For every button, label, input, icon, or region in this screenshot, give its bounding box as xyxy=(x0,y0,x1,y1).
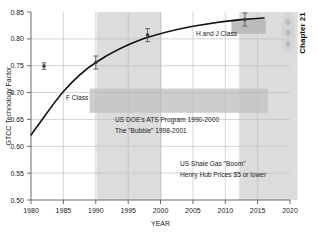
x-tick-label: 2000 xyxy=(153,207,169,214)
annotation-bubble: The "Bubble" 1998-2001 xyxy=(115,127,187,134)
x-tick-label: 2020 xyxy=(282,207,298,214)
y-tick-label: 0.70 xyxy=(10,89,24,96)
y-tick-label: 0.75 xyxy=(10,62,24,69)
x-axis-ticks xyxy=(31,200,290,204)
annotation-f-class: F Class xyxy=(66,94,89,101)
oval-artifact-dot xyxy=(286,30,291,36)
x-tick-label: 2005 xyxy=(185,207,201,214)
x-tick-label: 1980 xyxy=(23,207,39,214)
annotation-shale-gas: US Shale Gas "Boom" xyxy=(180,160,246,167)
chapter-label: Chapter 21 xyxy=(298,12,307,54)
x-tick-label: 1985 xyxy=(56,207,72,214)
chart-canvas: 0.85 0.80 0.75 0.70 0.65 0.60 0.55 0.50 … xyxy=(0,0,318,239)
x-tick-label: 2015 xyxy=(250,207,266,214)
shaded-region-f-class-band xyxy=(90,89,268,113)
x-tick-label: 1990 xyxy=(88,207,104,214)
annotation-ats-program: US DOE's ATS Program 1990-2000 xyxy=(115,116,219,124)
annotation-h-and-j-class: H and J Class xyxy=(196,30,238,37)
gtcc-technology-factor-chart: 0.85 0.80 0.75 0.70 0.65 0.60 0.55 0.50 … xyxy=(0,0,318,239)
x-tick-label: 2010 xyxy=(218,207,234,214)
y-axis-ticks xyxy=(27,12,31,200)
oval-artifact-dot xyxy=(286,19,291,25)
oval-artifact-dot xyxy=(286,41,291,47)
y-tick-label: 0.50 xyxy=(10,197,24,204)
y-tick-label: 0.55 xyxy=(10,170,24,177)
y-tick-label: 0.65 xyxy=(10,116,24,123)
y-tick-label: 0.60 xyxy=(10,143,24,150)
x-axis-title: YEAR xyxy=(151,220,170,227)
annotation-henry-hub: Henry Hub Prices $5 or lower xyxy=(180,171,267,179)
y-tick-label: 0.80 xyxy=(10,35,24,42)
y-axis-title: GTCC Technology Factor xyxy=(5,66,13,146)
x-tick-label: 1995 xyxy=(120,207,136,214)
y-tick-label: 0.85 xyxy=(10,9,24,16)
